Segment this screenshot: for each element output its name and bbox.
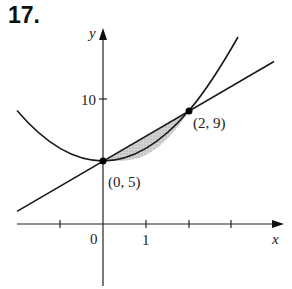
- y-axis-arrow-icon: [99, 28, 107, 40]
- point-0-5: [100, 158, 107, 165]
- point-2-9: [186, 108, 193, 115]
- tick-label-1: 1: [142, 232, 150, 248]
- point-label-2-9: (2, 9): [193, 115, 226, 132]
- tick-label-10: 10: [81, 92, 96, 108]
- x-axis-label: x: [271, 231, 279, 247]
- tick-label-0: 0: [90, 231, 98, 247]
- graph: y x 10 0 1 (0, 5) (2, 9): [0, 0, 292, 289]
- line-curve: [17, 62, 274, 212]
- point-label-0-5: (0, 5): [108, 174, 141, 191]
- y-axis-label: y: [87, 25, 96, 41]
- parabola-curve: [17, 37, 238, 161]
- x-axis-arrow-icon: [272, 220, 284, 228]
